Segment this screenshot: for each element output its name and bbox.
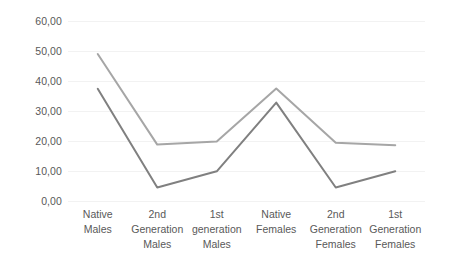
y-axis: 0,0010,0020,0030,0040,0050,0060,00	[0, 21, 62, 201]
y-axis-tick-label: 40,00	[4, 75, 62, 87]
y-axis-tick-label: 50,00	[4, 45, 62, 57]
plot-area	[68, 21, 425, 201]
y-axis-tick-label: 30,00	[4, 105, 62, 117]
line-chart: 0,0010,0020,0030,0040,0050,0060,00 Nativ…	[0, 0, 457, 271]
x-axis-category-label: Native Males	[68, 205, 128, 269]
x-axis-category-label: 2nd Generation Females	[306, 205, 366, 269]
x-axis-category-label: 1st Generation Females	[366, 205, 426, 269]
x-axis-category-label: Native Females	[247, 205, 307, 269]
y-axis-tick-label: 0,00	[4, 195, 62, 207]
series-line-series-2	[98, 54, 396, 145]
x-axis: Native Males2nd Generation Males1st gene…	[68, 205, 425, 269]
series-line-series-1	[98, 89, 396, 188]
y-axis-tick-label: 20,00	[4, 135, 62, 147]
x-axis-category-label: 1st generation Males	[187, 205, 247, 269]
x-axis-category-label: 2nd Generation Males	[128, 205, 188, 269]
y-axis-tick-label: 10,00	[4, 165, 62, 177]
y-axis-tick-label: 60,00	[4, 15, 62, 27]
gridline	[68, 201, 425, 202]
series-lines	[68, 21, 425, 201]
